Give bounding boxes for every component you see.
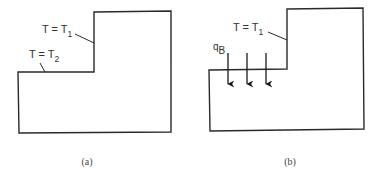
panel-b: T = T1 qB (b) bbox=[209, 8, 364, 168]
leader-line-t2-a bbox=[40, 63, 45, 72]
label-flux-qb: qB bbox=[213, 41, 226, 56]
panel-a: T = T1 T = T2 (a) bbox=[18, 11, 171, 168]
leader-line-t1-a bbox=[75, 34, 94, 43]
label-t-equals-t1-a: T = T1 bbox=[42, 23, 73, 39]
leader-line-t1-b bbox=[268, 32, 287, 40]
caption-b: (b) bbox=[284, 156, 296, 168]
label-t-equals-t2-a: T = T2 bbox=[29, 48, 60, 64]
l-shaped-domain-a bbox=[18, 11, 171, 133]
caption-a: (a) bbox=[81, 156, 92, 168]
figure-canvas: T = T1 T = T2 (a) T = T1 qB (b) bbox=[0, 0, 379, 182]
label-t-equals-t1-b: T = T1 bbox=[233, 21, 264, 37]
